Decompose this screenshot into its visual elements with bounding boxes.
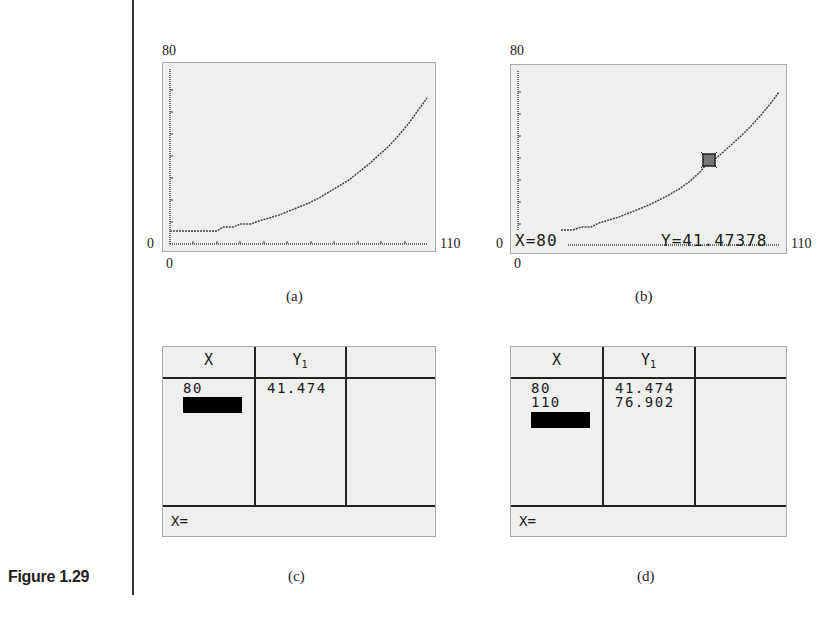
graph-a-ymax-label: 80	[162, 43, 176, 59]
margin-rule	[132, 0, 134, 595]
header-y-label: Y	[292, 351, 301, 369]
table-d-screen: X Y1 80 41.474 110 76.902 X=	[510, 346, 787, 537]
table-d-y-value: 41.474	[615, 381, 675, 395]
graph-b-ymin-label: 0	[496, 236, 503, 252]
header-y-subscript: 1	[302, 359, 308, 370]
table-c-y-value: 41.474	[267, 381, 327, 395]
graph-a-plot	[163, 63, 437, 253]
table-d-header-y1: Y1	[603, 351, 694, 370]
table-d-y-value: 76.902	[615, 395, 675, 409]
table-c-header-divider	[163, 377, 435, 379]
caption-d: (d)	[637, 568, 655, 585]
caption-c: (c)	[288, 568, 305, 585]
table-d-x-value: 110	[531, 395, 561, 409]
table-d-x-value: 80	[531, 381, 551, 395]
table-d-header-x: X	[511, 351, 602, 369]
header-y-subscript: 1	[650, 359, 656, 370]
graph-b-ymax-label: 80	[510, 43, 524, 59]
table-c-input-cursor[interactable]	[183, 397, 242, 413]
graph-b-xmin-label: 0	[514, 256, 521, 272]
graph-b-screen: X=80 Y=41.47378	[510, 64, 787, 254]
trace-x-readout: X=80	[515, 231, 558, 250]
table-c-header-y1: Y1	[255, 351, 345, 370]
trace-y-readout: Y=41.47378	[661, 231, 767, 250]
graph-a-ymin-label: 0	[147, 236, 154, 252]
table-c-x-value: 80	[183, 381, 203, 395]
graph-a-xmin-label: 0	[166, 256, 173, 272]
graph-b-plot	[511, 65, 788, 255]
caption-a: (a)	[286, 288, 303, 305]
graph-a-xmax-label: 110	[440, 236, 460, 252]
trace-cursor-icon	[701, 152, 717, 168]
table-d-divider	[694, 347, 696, 506]
table-d-footer-divider	[511, 505, 786, 507]
table-c-footer: X=	[171, 513, 188, 529]
table-c-divider	[254, 347, 256, 506]
header-y-label: Y	[641, 351, 650, 369]
table-c-footer-divider	[163, 505, 435, 507]
table-d-header-divider	[511, 377, 786, 379]
table-d-divider	[602, 347, 604, 506]
figure-label: Figure 1.29	[8, 568, 89, 586]
caption-b: (b)	[635, 288, 653, 305]
graph-a-screen	[162, 62, 436, 252]
table-c-header-x: X	[163, 351, 254, 369]
graph-b-xmax-label: 110	[791, 236, 811, 252]
table-c-screen: X Y1 80 41.474 X=	[162, 346, 436, 537]
table-d-footer: X=	[519, 513, 536, 529]
table-d-input-cursor[interactable]	[531, 412, 590, 428]
table-c-divider	[345, 347, 347, 506]
